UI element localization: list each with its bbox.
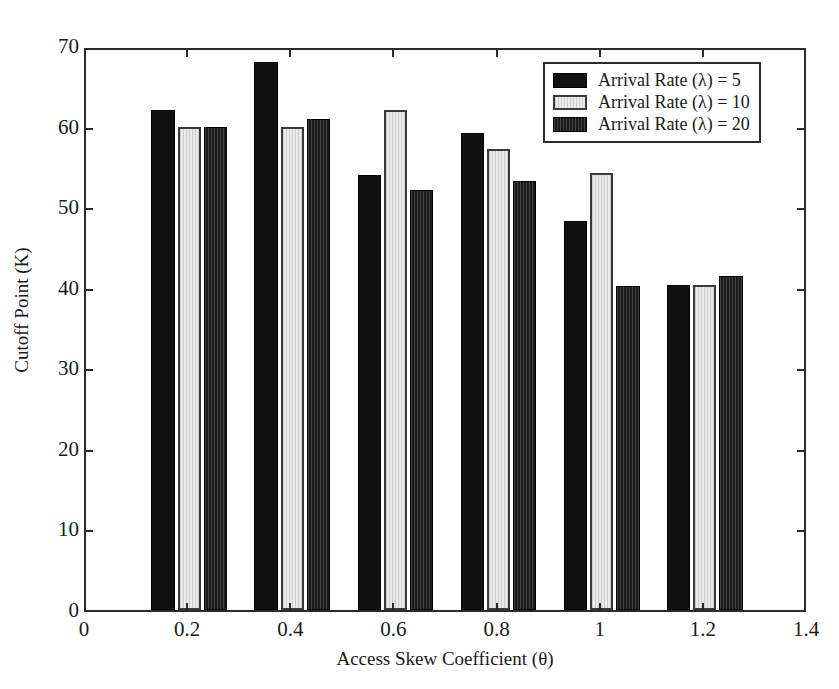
bar-series-2-cat-2 (384, 110, 407, 610)
y-tick-mark (84, 289, 93, 291)
y-axis-label: Cutoff Point (K) (11, 95, 33, 525)
x-tick-mark (289, 603, 291, 612)
x-tick-label: 0 (49, 619, 119, 640)
y-tick-mark (84, 530, 93, 532)
y-tick-label: 70 (19, 36, 79, 57)
bar-series-3-cat-1 (307, 119, 330, 610)
x-tick-mark (496, 603, 498, 612)
bar-series-2-cat-5 (693, 285, 716, 610)
legend-label-series-1: Arrival Rate (λ) = 5 (598, 71, 741, 90)
x-tick-mark (186, 603, 188, 612)
bar-series-3-cat-2 (410, 190, 433, 610)
bar-series-1-cat-4 (564, 221, 587, 610)
bar-series-1-cat-2 (358, 175, 381, 610)
bar-series-1-cat-0 (151, 110, 174, 610)
x-tick-label: 0.8 (462, 619, 532, 640)
x-tick-mark (289, 48, 291, 57)
legend-swatch-series-3 (553, 117, 587, 132)
bar-series-3-cat-3 (513, 181, 536, 610)
bar-series-1-cat-5 (667, 285, 690, 610)
bar-series-3-cat-0 (204, 127, 227, 610)
legend-label-series-3: Arrival Rate (λ) = 20 (598, 115, 750, 134)
x-tick-mark (599, 48, 601, 57)
x-tick-mark (392, 603, 394, 612)
x-tick-label: 1.4 (771, 619, 839, 640)
y-tick-mark (797, 208, 806, 210)
y-tick-mark (797, 450, 806, 452)
bar-series-3-cat-5 (719, 276, 742, 610)
x-axis-label: Access Skew Coefficient (θ) (84, 648, 806, 670)
x-tick-mark (599, 603, 601, 612)
y-tick-mark (84, 128, 93, 130)
y-tick-mark (797, 530, 806, 532)
x-tick-label: 0.6 (358, 619, 428, 640)
bar-series-2-cat-1 (281, 127, 304, 610)
legend-swatch-series-1 (553, 73, 587, 88)
figure-canvas: 01020304050607000.20.40.60.811.21.4 Cuto… (0, 0, 839, 689)
y-tick-mark (797, 289, 806, 291)
bar-series-2-cat-0 (178, 127, 201, 610)
x-tick-mark (186, 48, 188, 57)
y-tick-mark (84, 450, 93, 452)
bar-series-1-cat-3 (461, 133, 484, 610)
x-tick-mark (702, 603, 704, 612)
legend-item: Arrival Rate (λ) = 20 (553, 113, 751, 135)
y-tick-mark (84, 208, 93, 210)
x-tick-mark (496, 48, 498, 57)
legend-swatch-series-2 (553, 95, 587, 110)
legend-item: Arrival Rate (λ) = 5 (553, 69, 751, 91)
x-tick-mark (392, 48, 394, 57)
y-tick-mark (797, 128, 806, 130)
x-tick-label: 0.4 (255, 619, 325, 640)
legend-item: Arrival Rate (λ) = 10 (553, 91, 751, 113)
bar-series-2-cat-4 (590, 173, 613, 611)
bar-series-1-cat-1 (254, 62, 277, 610)
x-tick-label: 1.2 (668, 619, 738, 640)
y-tick-mark (84, 369, 93, 371)
bar-series-2-cat-3 (487, 149, 510, 610)
x-tick-label: 0.2 (152, 619, 222, 640)
legend: Arrival Rate (λ) = 5 Arrival Rate (λ) = … (543, 62, 761, 143)
x-tick-label: 1 (565, 619, 635, 640)
bar-series-3-cat-4 (616, 286, 639, 610)
legend-label-series-2: Arrival Rate (λ) = 10 (598, 93, 750, 112)
y-tick-label: 0 (19, 600, 79, 621)
x-tick-mark (702, 48, 704, 57)
y-tick-mark (797, 369, 806, 371)
